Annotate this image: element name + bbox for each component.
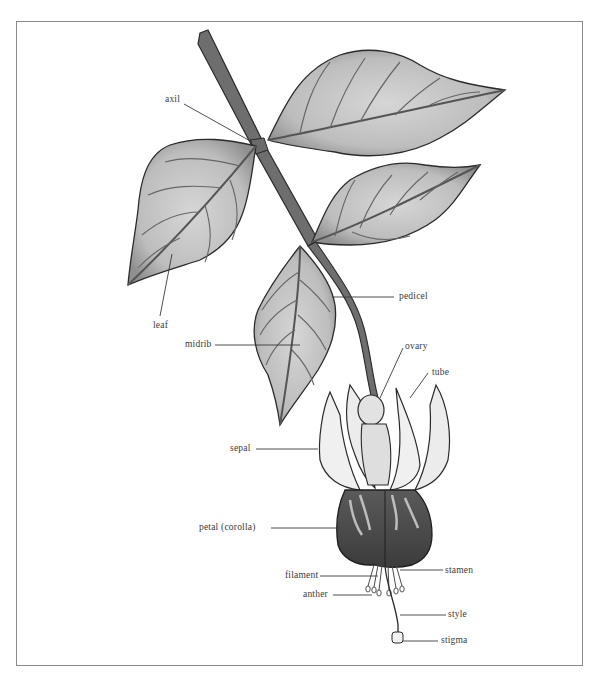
leaf-middle-right bbox=[312, 163, 480, 245]
corolla bbox=[337, 490, 432, 567]
label-style: style bbox=[448, 610, 467, 620]
label-sepal: sepal bbox=[230, 444, 251, 454]
label-tube: tube bbox=[432, 368, 449, 378]
leaf-upper-right bbox=[268, 50, 505, 155]
label-leaf: leaf bbox=[153, 321, 168, 331]
leaf-lower bbox=[254, 246, 335, 425]
leader-tube bbox=[410, 373, 428, 398]
label-petal-corolla: petal (corolla) bbox=[199, 523, 256, 533]
label-anther: anther bbox=[303, 590, 328, 600]
label-stamen: stamen bbox=[445, 566, 473, 576]
label-stigma: stigma bbox=[441, 636, 468, 646]
label-filament: filament bbox=[285, 571, 318, 581]
label-axil: axil bbox=[165, 95, 180, 105]
leader-ovary bbox=[380, 348, 403, 398]
fuchsia-diagram: axil leaf midrib pedicel ovary tube sepa… bbox=[0, 0, 602, 681]
label-ovary: ovary bbox=[405, 342, 428, 352]
label-midrib: midrib bbox=[185, 340, 212, 350]
label-pedicel: pedicel bbox=[399, 292, 428, 302]
leaf-upper-left bbox=[128, 139, 256, 285]
